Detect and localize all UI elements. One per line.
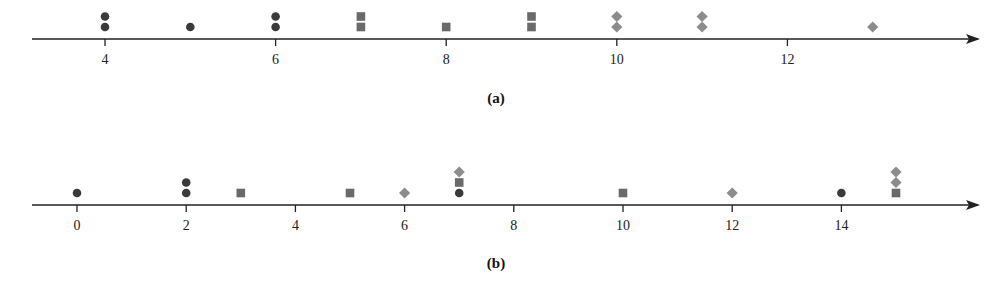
diamond-marker	[697, 11, 708, 22]
tick-group-b: 02468101214	[74, 205, 849, 233]
circle-marker	[182, 178, 191, 187]
diamond-marker	[727, 187, 738, 198]
diamond-marker	[611, 21, 622, 32]
circle-marker	[271, 12, 280, 21]
square-marker	[442, 23, 451, 32]
tick-label: 2	[183, 218, 190, 233]
points-b	[73, 166, 902, 198]
tick-label: 12	[780, 52, 794, 67]
circle-marker	[837, 189, 846, 198]
square-marker	[346, 189, 355, 198]
diamond-marker	[697, 21, 708, 32]
tick-label: 6	[272, 52, 279, 67]
diamond-marker	[890, 166, 901, 177]
square-marker	[357, 12, 366, 21]
diamond-marker	[890, 177, 901, 188]
tick-label: 12	[725, 218, 739, 233]
panel-label-b: (b)	[487, 255, 505, 272]
circle-marker	[186, 23, 195, 32]
tick-label: 0	[74, 218, 81, 233]
square-marker	[455, 178, 464, 187]
dot-plot-figure: 4681012 (a) 02468101214 (b)	[0, 0, 993, 287]
square-marker	[357, 23, 366, 32]
square-marker	[527, 12, 536, 21]
diamond-marker	[399, 187, 410, 198]
tick-label: 8	[510, 218, 517, 233]
diamond-marker	[454, 166, 465, 177]
diamond-marker	[611, 11, 622, 22]
tick-group-a: 4681012	[102, 39, 795, 67]
circle-marker	[271, 23, 280, 32]
square-marker	[892, 189, 901, 198]
points-a	[101, 11, 879, 33]
tick-label: 10	[610, 52, 624, 67]
circle-marker	[182, 189, 191, 198]
square-marker	[527, 23, 536, 32]
circle-marker	[455, 189, 464, 198]
tick-label: 8	[443, 52, 450, 67]
diamond-marker	[867, 21, 878, 32]
square-marker	[619, 189, 628, 198]
circle-marker	[101, 23, 110, 32]
panel-a: 4681012 (a)	[32, 11, 978, 107]
panel-b: 02468101214 (b)	[32, 166, 978, 272]
tick-label: 4	[292, 218, 299, 233]
panel-label-a: (a)	[487, 90, 505, 107]
circle-marker	[101, 12, 110, 21]
tick-label: 4	[102, 52, 109, 67]
tick-label: 14	[834, 218, 848, 233]
tick-label: 6	[401, 218, 408, 233]
circle-marker	[73, 189, 82, 198]
square-marker	[237, 189, 246, 198]
tick-label: 10	[616, 218, 630, 233]
